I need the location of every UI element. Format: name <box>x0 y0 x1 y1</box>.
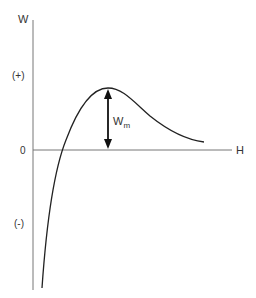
wm-label: Wm <box>113 115 130 130</box>
wm-label-main: W <box>113 115 124 127</box>
wm-label-sub: m <box>123 121 130 130</box>
zero-label: 0 <box>20 145 26 156</box>
y-axis-label: W <box>18 13 29 25</box>
diagram: W H (+) 0 (-) Wm <box>0 0 256 298</box>
arrow-up-icon <box>104 89 112 99</box>
arrow-down-icon <box>104 139 112 149</box>
minus-label: (-) <box>14 218 24 229</box>
x-axis-label: H <box>236 144 244 156</box>
plus-label: (+) <box>12 70 25 81</box>
